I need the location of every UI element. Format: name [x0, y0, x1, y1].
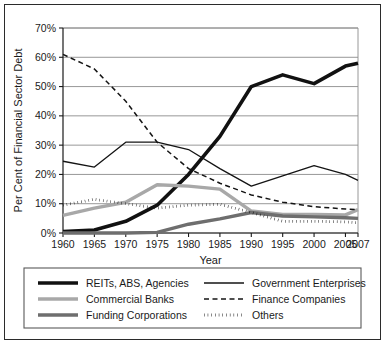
series-line-finance-companies	[63, 54, 358, 209]
x-axis-title: Year	[199, 254, 222, 266]
x-tick-label: 1990	[240, 238, 264, 250]
x-tick-label: 1995	[271, 238, 295, 250]
x-tick-label: 1975	[145, 238, 169, 250]
x-tick-label: 1980	[177, 238, 201, 250]
legend-label-reits-abs-agencies: REITs, ABS, Agencies	[86, 277, 189, 289]
y-tick-label: 40%	[35, 109, 56, 121]
legend-label-government-enterprises: Government Enterprises	[252, 277, 366, 289]
y-tick-label: 0%	[41, 227, 56, 239]
chart-figure: 0%10%20%30%40%50%60%70%19601965197019751…	[0, 0, 385, 344]
y-tick-label: 20%	[35, 168, 56, 180]
x-tick-label: 1970	[114, 238, 138, 250]
y-tick-label: 60%	[35, 51, 56, 63]
y-tick-label: 70%	[35, 22, 56, 34]
y-tick-label: 50%	[35, 80, 56, 92]
x-tick-label: 2007	[346, 238, 370, 250]
y-tick-label: 30%	[35, 139, 56, 151]
y-axis-title: Per Cent of Financial Sector Debt	[12, 49, 24, 213]
series-line-funding-corporations	[63, 213, 358, 234]
x-tick-label: 1960	[51, 238, 75, 250]
plot-area-border	[63, 28, 358, 233]
legend-label-commercial-banks: Commercial Banks	[86, 293, 174, 305]
legend-label-funding-corporations: Funding Corporations	[86, 309, 187, 321]
x-tick-label: 1985	[208, 238, 232, 250]
x-tick-label: 1965	[83, 238, 107, 250]
y-tick-label: 10%	[35, 197, 56, 209]
legend-label-others: Others	[252, 309, 284, 321]
x-tick-label: 2000	[302, 238, 326, 250]
line-chart: 0%10%20%30%40%50%60%70%19601965197019751…	[0, 0, 385, 344]
legend-label-finance-companies: Finance Companies	[252, 293, 345, 305]
